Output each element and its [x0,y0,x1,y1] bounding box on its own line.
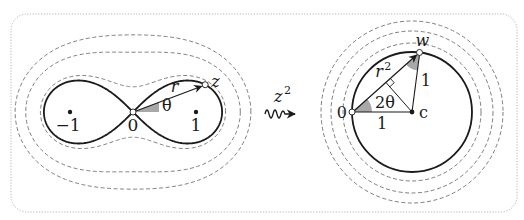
mapping-label-z: z [273,87,283,106]
point-minus-one [68,110,72,114]
right-angle-marker [390,78,395,86]
z-squared-mapping: z 2 [265,84,295,118]
figure-border [11,14,517,212]
label-minus-one: −1 [55,115,80,135]
lemniscate-to-circle-diagram: −1 0 1 z r θ z 2 0 c w r 2 2θ 1 1 [0,0,524,220]
label-zero: 0 [128,115,139,135]
label-zero-w-plane: 0 [337,103,347,122]
squiggle-arrow-icon [265,110,295,118]
label-w: w [416,31,430,50]
label-r-squared-base: r [375,62,384,81]
label-one: 1 [191,115,202,135]
z-point [202,82,208,88]
origin-point-w-plane [349,109,355,115]
label-z: z [210,72,220,91]
label-two-theta: 2θ [375,93,395,112]
mapping-label-exponent: 2 [284,84,291,97]
w-plane-panel: 0 c w r 2 2θ 1 1 [321,21,503,203]
z-plane-panel: −1 0 1 z r θ [15,35,251,189]
point-one [194,110,198,114]
label-one-radius-side: 1 [421,71,431,90]
label-one-radius-bottom: 1 [377,114,387,133]
label-r-squared-exponent: 2 [384,60,391,73]
label-r: r [171,77,180,96]
center-point-c [410,110,415,115]
label-c: c [419,103,428,122]
label-theta: θ [162,96,172,115]
